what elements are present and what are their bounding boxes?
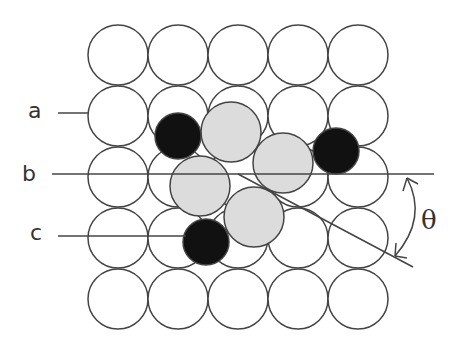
substrate-atom: [208, 25, 268, 85]
gray-atom: [170, 156, 230, 216]
angle-arc: [395, 178, 415, 256]
substrate-grid: [88, 25, 388, 329]
label-b: b: [22, 163, 36, 185]
black-atom: [155, 113, 201, 159]
label-c: c: [30, 222, 42, 244]
substrate-atom: [328, 25, 388, 85]
lattice-figure: [0, 0, 462, 349]
label-a: a: [28, 100, 41, 122]
gray-atom: [253, 133, 313, 193]
substrate-atom: [88, 86, 148, 146]
gray-atom: [201, 102, 261, 162]
substrate-atom: [148, 25, 208, 85]
gray-atom: [224, 187, 284, 247]
substrate-atom: [268, 25, 328, 85]
black-atom: [313, 128, 359, 174]
substrate-atom: [208, 269, 268, 329]
substrate-atom: [88, 25, 148, 85]
substrate-atom: [88, 147, 148, 207]
substrate-atom: [328, 269, 388, 329]
substrate-atom: [148, 269, 208, 329]
substrate-atom: [88, 269, 148, 329]
adsorbate-lattice-diagram: a b c θ: [0, 0, 462, 349]
label-theta: θ: [421, 207, 437, 233]
arrowhead-bottom-icon: [395, 243, 407, 258]
black-atom: [183, 219, 229, 265]
substrate-atom: [88, 208, 148, 268]
substrate-atom: [268, 269, 328, 329]
